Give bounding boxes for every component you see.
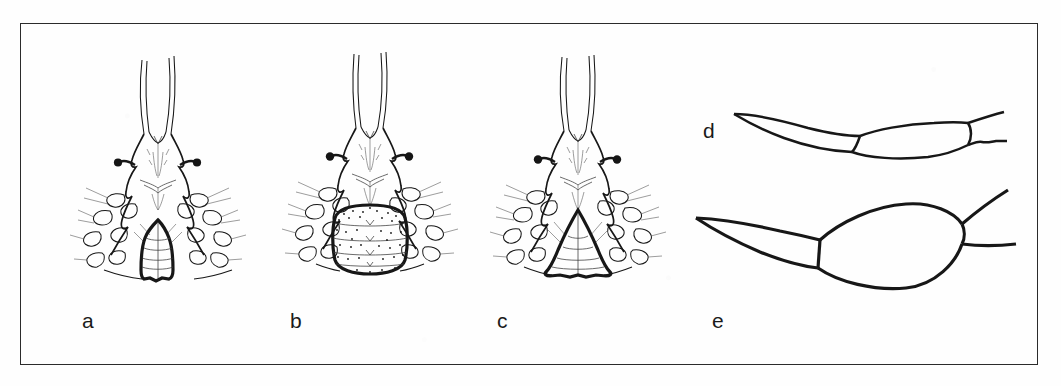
panel-d-drawing [728,96,1008,176]
panel-label-e: e [712,310,724,331]
panel-a-drawing [78,52,258,297]
panel-label-c: c [497,310,508,331]
panel-b-drawing [282,48,472,298]
figure-page: a [0,0,1061,386]
panel-label-d: d [703,120,715,141]
panel-label-b: b [290,310,302,331]
panel-c-drawing [486,50,671,300]
panel-label-a: a [82,310,94,331]
panel-e-drawing [688,178,1018,298]
